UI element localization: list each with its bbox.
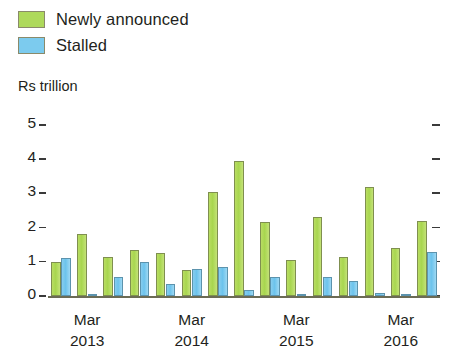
bar-newly-announced: [77, 234, 87, 296]
x-axis-tick-label: Mar2016: [366, 309, 436, 351]
y-axis-tick-mark: [39, 227, 46, 229]
bar-stalled: [218, 267, 228, 296]
x-axis-tick-label-month: Mar: [52, 309, 122, 330]
bar-stalled: [166, 284, 176, 296]
x-axis-tick-label-year: 2013: [52, 330, 122, 351]
x-axis-baseline: [48, 296, 440, 298]
x-axis-tick-label-month: Mar: [157, 309, 227, 330]
chart-plot-area: 012345 Mar2013Mar2014Mar2015Mar2016: [0, 0, 450, 352]
bar-newly-announced: [182, 270, 192, 296]
bar-newly-announced: [286, 260, 296, 296]
y-axis-tick-mark: [39, 192, 46, 194]
bar-stalled: [192, 269, 202, 296]
bar-stalled: [244, 290, 254, 296]
x-axis-tick-label: Mar2015: [261, 309, 331, 351]
y-axis-tick-label: 2: [14, 217, 36, 235]
bar-newly-announced: [391, 248, 401, 296]
y-axis-tick-label: 3: [14, 182, 36, 200]
bar-newly-announced: [234, 161, 244, 296]
x-axis-tick-label-year: 2014: [157, 330, 227, 351]
bar-stalled: [349, 281, 359, 296]
bar-newly-announced: [365, 187, 375, 296]
y-axis-tick-mark: [39, 158, 46, 160]
bar-newly-announced: [260, 222, 270, 296]
x-axis-tick-label-month: Mar: [366, 309, 436, 330]
bar-stalled: [61, 258, 71, 296]
y-axis-tick-label: 5: [14, 114, 36, 132]
x-axis-tick-label: Mar2013: [52, 309, 122, 351]
x-axis-tick-label-month: Mar: [261, 309, 331, 330]
x-axis-tick-label-year: 2015: [261, 330, 331, 351]
y-axis-tick-mark: [39, 295, 46, 297]
bar-newly-announced: [417, 221, 427, 296]
bar-stalled: [270, 277, 280, 296]
bar-stalled: [88, 294, 98, 296]
bar-newly-announced: [156, 253, 166, 296]
bar-stalled: [375, 293, 385, 296]
x-axis-labels: Mar2013Mar2014Mar2015Mar2016: [0, 305, 450, 351]
bar-stalled: [297, 294, 307, 296]
bar-newly-announced: [130, 250, 140, 296]
bar-newly-announced: [313, 217, 323, 296]
y-axis-tick-label: 4: [14, 148, 36, 166]
y-axis-tick-label: 1: [14, 251, 36, 269]
x-axis-tick-label: Mar2014: [157, 309, 227, 351]
bar-stalled: [323, 277, 333, 296]
x-axis-tick-label-year: 2016: [366, 330, 436, 351]
bar-stalled: [114, 277, 124, 296]
bar-newly-announced: [51, 262, 61, 296]
bar-newly-announced: [339, 257, 349, 296]
bar-stalled: [427, 252, 437, 296]
y-axis-tick-mark: [39, 124, 46, 126]
bar-stalled: [140, 262, 150, 296]
y-axis-tick-label: 0: [14, 285, 36, 303]
bar-stalled: [401, 294, 411, 296]
bar-series-container: [48, 110, 440, 296]
y-axis-tick-mark: [39, 261, 46, 263]
bar-newly-announced: [103, 257, 113, 296]
bar-newly-announced: [208, 192, 218, 296]
